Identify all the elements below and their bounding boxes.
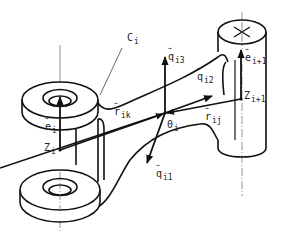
label-q-i1: qi1 [156,169,173,182]
point-o-i [163,111,166,114]
label-r-ij: rij [205,112,222,125]
bottom-left-disk [20,170,100,222]
point-z-i [58,148,61,151]
label-q-i2: qi2 [197,72,214,85]
point-z-i-plus-1 [239,97,242,100]
label-z-i: Zi [44,143,56,156]
diagram-canvas [0,0,281,245]
body-leader-line [100,48,122,95]
label-e-i-plus-1: ei+1 [245,53,266,66]
q-i1-arrow [147,113,165,163]
link-body-diagram: Ci qi3 qi2 qi1 ei ei+1 Zi Zi+1 rik rij 0… [0,0,281,245]
r-ij-vector [167,99,241,113]
label-q-i3: qi3 [168,52,185,65]
label-r-ik: rik [114,107,131,120]
label-origin-o-i: 0i [167,120,179,133]
label-z-i-plus-1: Zi+1 [244,91,265,104]
label-e-i: ei [45,122,57,135]
label-body-c-i: Ci [127,33,139,46]
